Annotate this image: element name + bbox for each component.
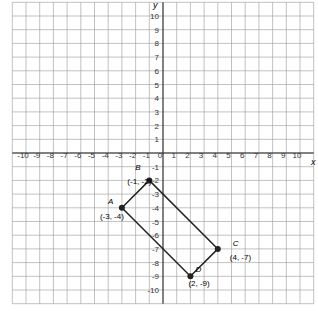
svg-text:-8: -8 — [47, 151, 55, 160]
point-A — [119, 205, 125, 211]
svg-text:1: 1 — [155, 135, 160, 144]
svg-text:-1: -1 — [143, 151, 151, 160]
svg-text:-5: -5 — [152, 218, 160, 227]
svg-text:1: 1 — [171, 151, 176, 160]
svg-text:-9: -9 — [152, 272, 160, 281]
svg-text:-3: -3 — [115, 151, 123, 160]
svg-text:6: 6 — [155, 67, 160, 76]
svg-text:-10: -10 — [17, 151, 29, 160]
svg-text:10: 10 — [150, 12, 159, 21]
svg-text:(4, -7): (4, -7) — [230, 253, 252, 262]
coordinate-grid: -10-9-8-7-6-5-4-3-2-10123456789101098765… — [0, 0, 318, 311]
svg-text:3: 3 — [155, 108, 160, 117]
svg-text:2: 2 — [185, 151, 190, 160]
svg-text:-8: -8 — [152, 259, 160, 268]
svg-text:-7: -7 — [61, 151, 69, 160]
svg-text:x: x — [310, 157, 316, 167]
svg-text:-5: -5 — [88, 151, 96, 160]
svg-text:-9: -9 — [33, 151, 41, 160]
svg-text:8: 8 — [155, 39, 160, 48]
svg-text:(-3, -4): (-3, -4) — [100, 212, 124, 221]
svg-text:4: 4 — [155, 94, 160, 103]
svg-text:10: 10 — [293, 151, 302, 160]
svg-text:(2, -9): (2, -9) — [188, 279, 210, 288]
svg-text:-1: -1 — [152, 163, 160, 172]
svg-text:-6: -6 — [74, 151, 82, 160]
svg-text:-10: -10 — [147, 286, 159, 295]
svg-text:3: 3 — [199, 151, 204, 160]
svg-text:9: 9 — [281, 151, 286, 160]
svg-text:-4: -4 — [152, 204, 160, 213]
svg-text:(-1, -2): (-1, -2) — [127, 177, 151, 186]
svg-text:8: 8 — [267, 151, 272, 160]
rectangle — [122, 180, 218, 276]
svg-text:5: 5 — [226, 151, 231, 160]
svg-text:6: 6 — [240, 151, 245, 160]
svg-text:-3: -3 — [152, 190, 160, 199]
svg-text:-7: -7 — [152, 245, 160, 254]
svg-text:4: 4 — [213, 151, 218, 160]
point-C — [215, 246, 221, 252]
svg-text:A: A — [107, 197, 113, 206]
svg-text:C: C — [233, 239, 239, 248]
svg-text:-4: -4 — [102, 151, 110, 160]
svg-text:7: 7 — [155, 53, 160, 62]
svg-text:7: 7 — [254, 151, 259, 160]
svg-text:-2: -2 — [129, 151, 137, 160]
svg-text:D: D — [195, 265, 201, 274]
svg-text:9: 9 — [155, 26, 160, 35]
svg-text:0: 0 — [158, 151, 163, 160]
svg-text:B: B — [135, 163, 141, 172]
svg-text:5: 5 — [155, 81, 160, 90]
svg-text:y: y — [152, 0, 158, 10]
svg-text:2: 2 — [155, 122, 160, 131]
